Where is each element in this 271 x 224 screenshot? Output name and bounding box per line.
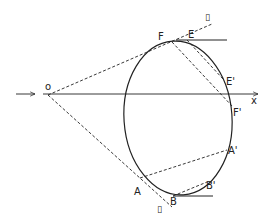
ellipse-tangent-diagram: o x F E E' F' A' B' A B ▯ ▯ <box>0 0 271 224</box>
label-E-prime: E' <box>226 76 235 87</box>
label-x-axis: x <box>251 95 257 106</box>
lower-tangent-line <box>48 95 172 207</box>
chord-F-Fprime <box>172 42 232 106</box>
label-B-prime: B' <box>206 180 216 191</box>
label-B: B <box>170 196 177 207</box>
ellipse <box>119 37 237 198</box>
label-origin: o <box>45 81 51 92</box>
label-E: E <box>188 29 194 40</box>
label-F: F <box>158 31 164 42</box>
chord-A-Aprime <box>140 150 227 178</box>
label-A: A <box>134 186 141 197</box>
label-A-prime: A' <box>228 145 238 156</box>
label-bottom-symbol: ▯ <box>157 204 162 214</box>
label-top-symbol: ▯ <box>205 12 210 22</box>
chord-E-Eprime <box>187 40 223 79</box>
label-F-prime: F' <box>233 107 242 118</box>
